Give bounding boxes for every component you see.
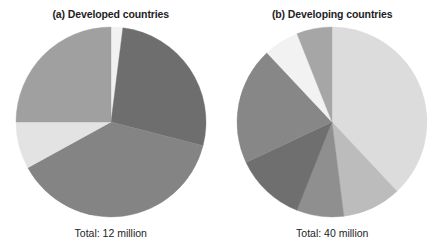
- panel-b-title: (b) Developing countries: [272, 8, 393, 20]
- panel-b-total-label: Total: 40 million: [296, 227, 368, 239]
- panel-developed-countries: (a) Developed countries Total: 12 millio…: [0, 0, 222, 250]
- panel-a-title: (a) Developed countries: [52, 8, 169, 20]
- pie-slice: [16, 27, 111, 122]
- pie-b-container: [232, 22, 432, 222]
- pie-a-container: [11, 22, 211, 222]
- pie-chart-b: [232, 22, 432, 222]
- pie-chart-a: [11, 22, 211, 222]
- panel-developing-countries: (b) Developing countries Total: 40 milli…: [222, 0, 443, 250]
- panel-a-total-label: Total: 12 million: [75, 227, 147, 239]
- pie-chart-figure: (a) Developed countries Total: 12 millio…: [0, 0, 443, 250]
